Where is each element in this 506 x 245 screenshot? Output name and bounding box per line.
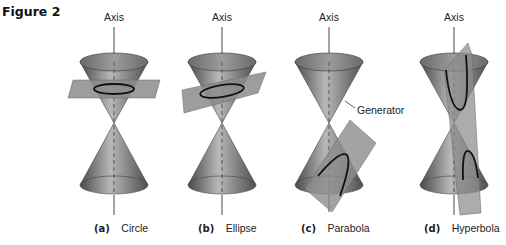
axis-label: Axis <box>104 11 124 23</box>
panel-label: (d) Hyperbola <box>424 218 500 235</box>
cutting-plane <box>68 80 160 98</box>
panel-label: (b) Ellipse <box>198 218 257 235</box>
panel-d-hyperbola: Axis (d) Hyperbola <box>420 11 500 235</box>
panel-b-ellipse: Axis (b) Ellipse <box>182 11 266 235</box>
conic-sections-diagram: Axis (a) Circle Axis (b) Ellipse Axis <box>0 0 506 245</box>
double-cone <box>188 53 256 194</box>
panel-label: (c) Parabola <box>301 218 370 235</box>
generator-pointer <box>345 101 355 108</box>
double-cone <box>80 53 148 194</box>
panel-a-circle: Axis (a) Circle <box>68 11 160 235</box>
axis-label: Axis <box>319 11 339 23</box>
panel-label: (a) Circle <box>94 218 148 235</box>
axis-label: Axis <box>444 11 464 23</box>
generator-label: Generator <box>357 104 405 116</box>
panel-c-parabola: Axis Generator (c) Parabola <box>295 11 405 235</box>
axis-label: Axis <box>212 11 232 23</box>
